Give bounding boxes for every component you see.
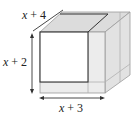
height-label-rest: + 2 (8, 55, 27, 69)
width-arrow-right-icon (100, 96, 105, 100)
height-arrow-down-icon (30, 89, 34, 94)
depth-label-rest: + 4 (27, 8, 46, 22)
height-label: x + 2 (3, 56, 27, 68)
width-label: x + 3 (59, 102, 83, 114)
width-label-rest: + 3 (64, 101, 83, 115)
width-arrow-left-icon (39, 96, 44, 100)
box-diagram: x + 4 x + 2 x + 3 (0, 0, 140, 118)
inner-cube-front (40, 32, 88, 82)
depth-label: x + 4 (22, 9, 46, 21)
height-arrow-up-icon (30, 33, 34, 38)
